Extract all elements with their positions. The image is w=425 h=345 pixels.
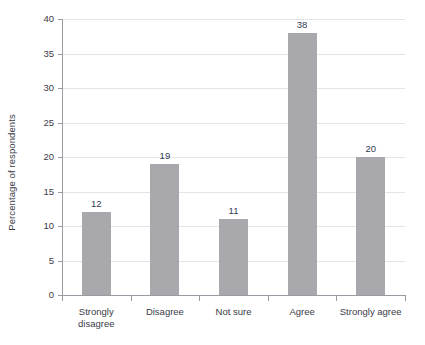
x-axis-tick-mark xyxy=(268,296,269,301)
bar xyxy=(82,212,111,295)
y-axis-tick-label: 0 xyxy=(0,290,54,300)
bar xyxy=(219,219,248,295)
y-axis-tick-label: 35 xyxy=(0,49,54,59)
y-axis-tick-label: 20 xyxy=(0,152,54,162)
bar-value-label: 19 xyxy=(145,151,185,161)
bar-chart: Percentage of respondents 05101520253035… xyxy=(0,0,425,345)
bar-value-label: 12 xyxy=(76,199,116,209)
x-axis-tick-mark xyxy=(199,296,200,301)
y-axis-tick-label: 25 xyxy=(0,118,54,128)
y-axis-tick-label: 30 xyxy=(0,83,54,93)
x-axis-tick-mark xyxy=(131,296,132,301)
y-axis-tick-label: 5 xyxy=(0,256,54,266)
bar-value-label: 38 xyxy=(282,20,322,30)
y-axis-tick-label: 15 xyxy=(0,187,54,197)
bar-value-label: 11 xyxy=(214,206,254,216)
x-axis-line xyxy=(62,295,406,296)
y-axis-tick-label: 40 xyxy=(0,14,54,24)
bar xyxy=(356,157,385,295)
x-axis-tick-mark xyxy=(405,296,406,301)
bar-series xyxy=(62,19,405,295)
x-axis-tick-mark xyxy=(336,296,337,301)
bar-value-label: 20 xyxy=(351,144,391,154)
bar xyxy=(288,33,317,295)
bar xyxy=(150,164,179,295)
x-axis-category-label: Strongly agree xyxy=(331,306,411,318)
y-axis-tick-label: 10 xyxy=(0,221,54,231)
x-axis-tick-mark xyxy=(62,296,63,301)
